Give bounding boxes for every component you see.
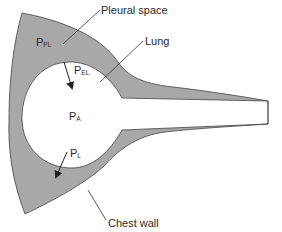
- lung-label: Lung: [145, 35, 169, 47]
- lung-pressure-diagram: Pleural space Lung Chest wall PPL PEL PA…: [0, 0, 282, 232]
- pel-symbol: PEL: [74, 64, 90, 76]
- chest-wall-label: Chest wall: [108, 217, 159, 229]
- pl-symbol: PL: [70, 147, 81, 159]
- pa-symbol: PA: [69, 110, 81, 122]
- chest-wall-leader: [88, 190, 106, 220]
- pel-arrow: [64, 62, 72, 88]
- pleural-space-label: Pleural space: [101, 4, 168, 16]
